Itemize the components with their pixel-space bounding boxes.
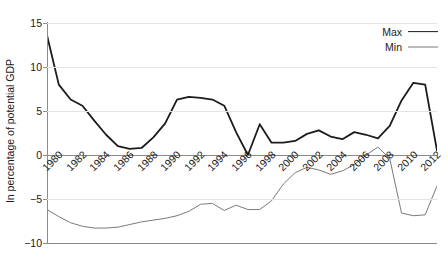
- legend-swatch-max-icon: [408, 29, 438, 35]
- y-tick-label-15: 15: [16, 17, 42, 29]
- y-tickmark--5: [43, 199, 47, 200]
- y-tick-label--10: −10: [16, 237, 42, 249]
- legend-item-min[interactable]: Min: [352, 39, 438, 54]
- chart-legend: Max Min: [352, 24, 438, 54]
- y-tick-label-0: 0: [16, 149, 42, 161]
- legend-label-min: Min: [385, 41, 402, 53]
- y-tickmark-0: [43, 155, 47, 156]
- y-tick-label--5: −5: [16, 193, 42, 205]
- y-tickmark-10: [43, 67, 47, 68]
- legend-item-max[interactable]: Max: [352, 24, 438, 39]
- gridline-5: [47, 111, 437, 112]
- chart-figure: In percentage of potential GDP 151050−5−…: [0, 0, 448, 261]
- y-tickmark--10: [43, 243, 47, 244]
- gridline--10: [47, 243, 437, 244]
- legend-swatch-min-icon: [408, 44, 438, 50]
- gridline-10: [47, 67, 437, 68]
- legend-label-max: Max: [382, 26, 402, 38]
- plot-area: [47, 23, 437, 243]
- y-tick-label-5: 5: [16, 105, 42, 117]
- y-axis-tick-labels: 151050−5−10: [14, 0, 42, 261]
- y-tickmark-5: [43, 111, 47, 112]
- y-tick-label-10: 10: [16, 61, 42, 73]
- y-tickmark-15: [43, 23, 47, 24]
- gridline--5: [47, 199, 437, 200]
- data-lines: [47, 23, 437, 243]
- y-axis-line: [47, 22, 48, 244]
